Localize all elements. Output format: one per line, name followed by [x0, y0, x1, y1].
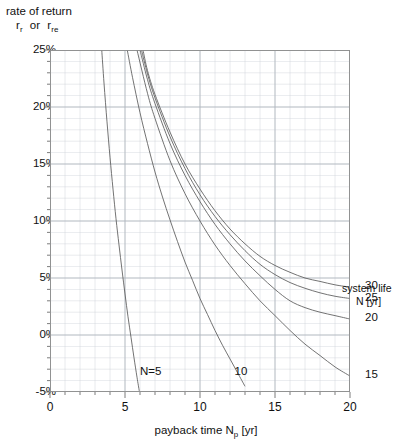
- x-tick-label: 5: [110, 400, 140, 414]
- y-tick-label: 20%: [6, 100, 56, 112]
- legend-item-30: 30: [365, 279, 378, 291]
- x-tick-label: 10: [185, 400, 215, 414]
- curve-10: [127, 50, 245, 386]
- y-tick-label: 15%: [6, 157, 56, 169]
- x-tick-label: 15: [260, 400, 290, 414]
- x-axis-title-sub: p: [234, 430, 238, 439]
- legend-item-15: 15: [365, 368, 378, 380]
- curve-annotation: N=5: [140, 365, 161, 377]
- chart-canvas: [50, 50, 350, 392]
- x-axis-title-unit: [yr]: [241, 424, 257, 436]
- y-axis-symbol-rr-sub: r: [20, 25, 23, 34]
- x-tick-label: 20: [335, 400, 365, 414]
- y-axis-title-line2: rr or rre: [6, 18, 72, 37]
- x-axis-title-base: payback time N: [155, 424, 234, 436]
- y-tick-label: -5%: [6, 385, 56, 397]
- y-axis-title-line1: rate of return: [6, 4, 72, 18]
- y-axis-title-or: or: [30, 19, 41, 31]
- curve-annotation: 10: [235, 365, 248, 377]
- plot-area: [50, 50, 350, 392]
- x-axis-title: payback time Np [yr]: [0, 424, 412, 439]
- legend-item-20: 20: [365, 311, 378, 323]
- legend-item-25: 25: [365, 291, 378, 303]
- curve-15: [137, 50, 350, 376]
- curve-group: [102, 50, 350, 391]
- y-tick-label: 5%: [6, 271, 56, 283]
- y-tick-label: 10%: [6, 214, 56, 226]
- y-tick-label: 25%: [6, 43, 56, 55]
- y-axis-symbol-rre-sub: re: [51, 25, 59, 34]
- y-axis-title: rate of return rr or rre: [6, 4, 72, 37]
- x-tick-label: 0: [35, 400, 65, 414]
- chart-root: rate of return rr or rre -5%0%5%10%15%20…: [0, 0, 412, 445]
- y-tick-label: 0%: [6, 328, 56, 340]
- curve-5: [102, 50, 140, 391]
